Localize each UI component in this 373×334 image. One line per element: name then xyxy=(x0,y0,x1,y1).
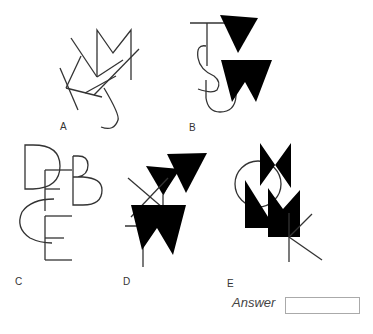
figure-a-label: A xyxy=(60,121,67,132)
figure-a xyxy=(60,30,139,128)
figure-c xyxy=(20,145,102,260)
figure-d-label: D xyxy=(123,276,130,287)
answer-input[interactable] xyxy=(285,297,360,314)
puzzle-figures xyxy=(0,0,373,334)
figure-e xyxy=(235,143,322,262)
answer-label: Answer xyxy=(232,295,275,310)
figure-c-label: C xyxy=(15,276,22,287)
figure-e-label: E xyxy=(227,278,234,289)
figure-b-label: B xyxy=(189,122,196,133)
figure-d xyxy=(125,153,207,267)
letter-m xyxy=(97,30,131,80)
figure-b xyxy=(190,15,272,112)
